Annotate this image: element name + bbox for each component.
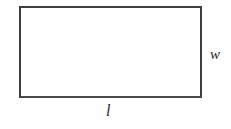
- rectangle-top-edge: [19, 6, 202, 8]
- width-label: w: [210, 47, 220, 62]
- rectangle-bottom-edge: [19, 96, 202, 98]
- rectangle-left-edge: [19, 6, 21, 98]
- length-label: l: [106, 103, 110, 119]
- geometry-diagram-canvas: w l: [0, 0, 231, 129]
- rectangle-right-edge: [200, 6, 202, 98]
- rectangle-shape: [19, 6, 202, 98]
